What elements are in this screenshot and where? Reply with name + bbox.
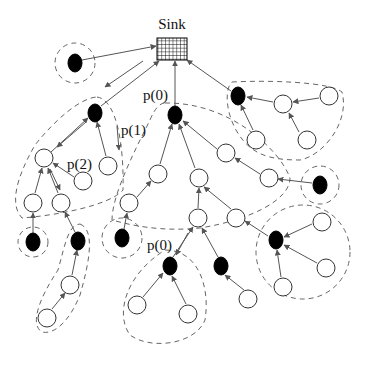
cluster-head-node [163, 257, 177, 275]
sensor-node [239, 290, 257, 308]
sensor-node [227, 209, 245, 227]
sensor-node [179, 305, 197, 323]
sensor-node [149, 165, 167, 183]
sensor-node [61, 276, 79, 294]
sink: Sink [157, 16, 187, 60]
sensor-node [317, 259, 335, 277]
sensor-node [190, 169, 208, 187]
label-p2: p(2) [67, 156, 92, 173]
cluster-head-node [68, 54, 82, 72]
sink-label: Sink [158, 16, 186, 32]
sensor-node [217, 144, 235, 162]
cluster-head-node [269, 231, 283, 249]
sensor-node [74, 172, 92, 190]
cluster-head-node [26, 233, 40, 251]
sink-grid-icon [157, 38, 187, 60]
cluster-head-node [88, 104, 102, 122]
sensor-node [24, 194, 42, 212]
cluster-head-node [313, 176, 327, 194]
sensor-node [320, 87, 338, 105]
sensor-node [52, 194, 70, 212]
sensor-node [120, 194, 138, 212]
network-diagram: Sink [0, 0, 370, 374]
sensor-node [99, 157, 117, 175]
sensor-node [35, 149, 53, 167]
cluster-head-node [168, 106, 182, 124]
sensor-node [38, 309, 56, 327]
label-p0-bottom: p(0) [147, 237, 172, 254]
cluster-b7 [256, 205, 350, 299]
cluster-head-node [71, 232, 85, 250]
nodes [24, 54, 338, 327]
sensor-node [189, 209, 207, 227]
sensor-node [313, 213, 331, 231]
cluster-head-node [231, 87, 245, 105]
sensor-node [274, 95, 292, 113]
sensor-node [260, 169, 278, 187]
cluster-head-node [214, 257, 228, 275]
cluster-head-node [115, 229, 129, 247]
label-p1: p(1) [121, 122, 146, 139]
sensor-node [128, 296, 146, 314]
sensor-node [298, 131, 316, 149]
sensor-node [274, 278, 292, 296]
sensor-node [247, 131, 265, 149]
label-p0-top: p(0) [143, 87, 168, 104]
